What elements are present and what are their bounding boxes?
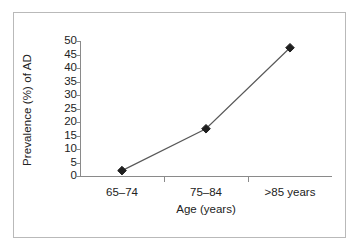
x-axis-line bbox=[80, 176, 332, 177]
series-polyline bbox=[122, 48, 290, 171]
y-axis-tick-mark bbox=[75, 136, 80, 137]
y-axis-tick-mark bbox=[75, 176, 80, 177]
y-axis-tick-mark bbox=[75, 122, 80, 123]
figure: Prevalence (%) of AD 0510152025303540455… bbox=[0, 0, 359, 250]
y-axis-title: Prevalence (%) of AD bbox=[21, 35, 33, 185]
y-axis-tick-mark bbox=[75, 55, 80, 56]
data-point-marker bbox=[118, 166, 127, 175]
y-axis-tick-mark bbox=[75, 149, 80, 150]
y-axis-tick-mark bbox=[75, 109, 80, 110]
y-axis-tick-mark bbox=[75, 41, 80, 42]
data-series-line bbox=[80, 41, 332, 176]
y-axis-tick-mark bbox=[75, 163, 80, 164]
y-axis-tick-mark bbox=[75, 68, 80, 69]
x-axis-title: Age (years) bbox=[80, 203, 332, 215]
y-axis-tick-mark bbox=[75, 95, 80, 96]
y-axis-tick-labels: 05101520253035404550 bbox=[52, 36, 77, 176]
x-axis-tick-labels: 65–7475–84>85 years bbox=[80, 186, 332, 202]
plot-area bbox=[80, 41, 332, 176]
x-axis-tick-mark bbox=[248, 176, 249, 182]
x-axis-tick-label: 75–84 bbox=[190, 186, 222, 198]
y-axis-tick-mark bbox=[75, 82, 80, 83]
x-axis-tick-mark bbox=[164, 176, 165, 182]
x-axis-tick-label: >85 years bbox=[265, 186, 316, 198]
x-axis-tick-label: 65–74 bbox=[106, 186, 138, 198]
